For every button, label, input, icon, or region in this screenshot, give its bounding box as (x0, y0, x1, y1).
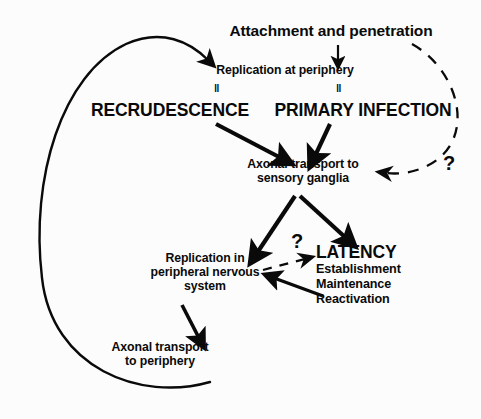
node-axonal-transport-to-periphery: Axonal transport to periphery (85, 341, 235, 369)
node-latency: LATENCY (316, 243, 448, 263)
node-primary-infection: PRIMARY INFECTION (268, 101, 458, 121)
arrow-primary-infection-to-axonal (315, 124, 330, 156)
question-mark-right-icon: ? (443, 152, 455, 175)
diagram-canvas: Attachment and penetration Replication a… (0, 0, 481, 419)
node-replication-at-periphery: Replication at periphery (185, 64, 385, 78)
arrow-replication-pns-to-axonal-periphery (182, 305, 199, 338)
loop-arrow-periphery-recirculation (40, 37, 210, 388)
node-latency-subitems: Establishment Maintenance Reactivation (316, 262, 456, 307)
arrow-axonal-to-replication-pns (257, 196, 295, 253)
node-recrudescence: RECRUDESCENCE (80, 101, 260, 121)
equivalence-mark-right-icon: ‖ (336, 83, 341, 94)
arrow-recrudescence-to-axonal (216, 124, 281, 158)
node-replication-in-peripheral-nervous-system: Replication in peripheral nervous system (140, 252, 270, 293)
arrow-axonal-to-latency (300, 196, 346, 238)
equivalence-mark-left-icon: ‖ (214, 83, 219, 94)
question-mark-center-icon: ? (291, 230, 303, 253)
node-axonal-transport-to-sensory-ganglia: Axonal transport to sensory ganglia (228, 158, 378, 186)
node-attachment-and-penetration: Attachment and penetration (200, 22, 462, 39)
